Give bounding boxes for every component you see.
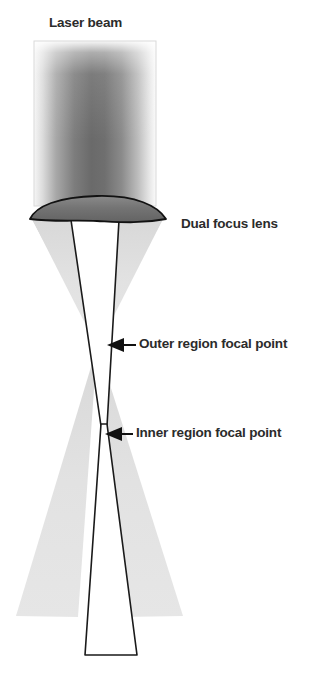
dual-focus-lens-figure: Laser beam Dual focus lens Outer region … bbox=[0, 0, 314, 682]
laser-beam-top-fade bbox=[34, 41, 156, 206]
dual-focus-lens-label: Dual focus lens bbox=[181, 217, 278, 231]
laser-beam-label: Laser beam bbox=[49, 16, 122, 30]
laser-beam-column bbox=[34, 41, 156, 206]
inner-region-focal-point-label: Inner region focal point bbox=[136, 426, 281, 440]
outer-region-focal-point-label: Outer region focal point bbox=[139, 337, 287, 351]
outer-cone-lower-left-fill bbox=[16, 347, 97, 617]
